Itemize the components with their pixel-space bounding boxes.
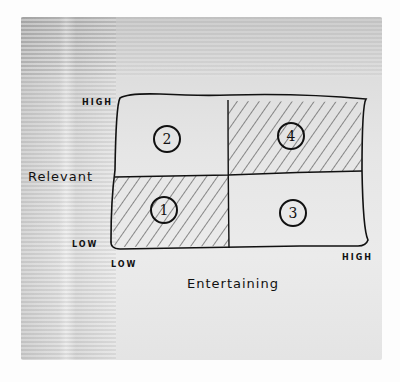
x-axis-low-label: LOW	[111, 260, 137, 269]
x-axis-high-label: HIGH	[342, 253, 373, 262]
matrix-drawing	[0, 0, 400, 382]
y-axis-high-label: HIGH	[82, 98, 113, 107]
y-axis-low-label: LOW	[72, 240, 98, 249]
y-axis-label: Relevant	[28, 169, 93, 184]
quadrant-3-number: 3	[279, 199, 307, 227]
quadrant-2-number: 2	[153, 125, 181, 153]
x-axis-label: Entertaining	[187, 276, 279, 291]
quadrant-1-number: 1	[150, 196, 178, 224]
quadrant-4-number: 4	[277, 122, 305, 150]
